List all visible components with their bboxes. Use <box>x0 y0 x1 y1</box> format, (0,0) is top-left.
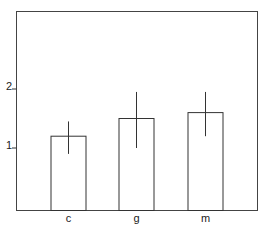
y-tick-label: 2 <box>6 80 12 92</box>
y-tick-label: 1 <box>6 139 12 151</box>
bar-chart: 12 cgm <box>0 0 266 230</box>
bars <box>51 92 223 211</box>
x-tick-label: c <box>66 212 72 224</box>
x-tick-label: g <box>133 212 139 224</box>
x-axis-labels: cgm <box>66 212 210 224</box>
y-axis-ticks: 12 <box>6 80 17 151</box>
x-tick-label: m <box>201 212 210 224</box>
